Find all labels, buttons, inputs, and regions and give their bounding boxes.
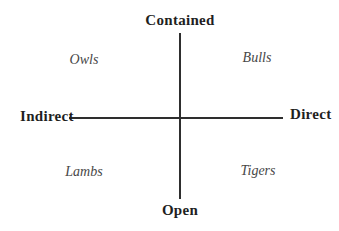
quadrant-label-top-left: Owls [70,53,99,67]
quadrant-diagram: Contained Open Indirect Direct Owls Bull… [0,0,339,231]
axis-label-bottom: Open [162,203,198,218]
quadrant-label-bottom-left: Lambs [65,165,102,179]
quadrant-label-bottom-right: Tigers [240,164,275,178]
horizontal-axis-line [69,117,283,119]
vertical-axis-line [179,33,181,199]
axis-label-right: Direct [290,107,332,122]
axis-label-top: Contained [145,13,214,28]
quadrant-label-top-right: Bulls [243,51,272,65]
axis-label-left: Indirect [20,109,74,124]
